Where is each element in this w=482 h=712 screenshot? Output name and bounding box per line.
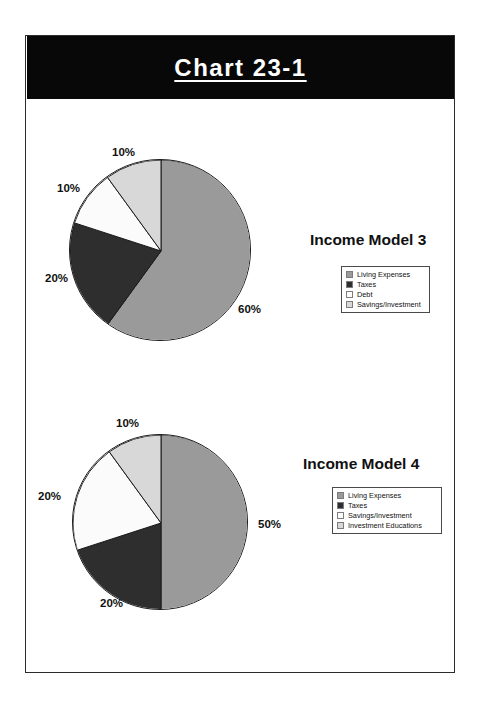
legend-swatch-taxes	[337, 502, 344, 509]
legend-swatch-savings-investment	[346, 301, 353, 308]
page-sheet-border	[25, 35, 455, 673]
legend-swatch-savings-investment	[337, 512, 344, 519]
pie2-slice-label-investment-educations: 10%	[116, 417, 139, 429]
legend-item: Taxes	[346, 280, 425, 289]
legend-item: Taxes	[337, 501, 437, 510]
legend-swatch-living-expenses	[346, 271, 353, 278]
legend-swatch-taxes	[346, 281, 353, 288]
legend-label-taxes: Taxes	[357, 280, 376, 289]
chart-title-income-model-4: Income Model 4	[303, 455, 419, 473]
legend-label-living-expenses: Living Expenses	[357, 270, 410, 279]
chart-title-income-model-3: Income Model 3	[310, 231, 426, 249]
pie2-slice-label-taxes: 20%	[100, 597, 123, 609]
legend-income-model-4: Living Expenses Taxes Savings/Investment…	[332, 487, 442, 534]
pie-graphic-2	[72, 434, 248, 610]
pie1-slice-label-savings-investment: 10%	[112, 146, 135, 158]
pie1-slice-label-taxes: 20%	[45, 272, 68, 284]
legend-label-living-expenses: Living Expenses	[348, 491, 401, 500]
legend-label-investment-educations: Investment Educations	[348, 521, 422, 530]
legend-item: Savings/Investment	[337, 511, 437, 520]
legend-item: Living Expenses	[337, 491, 437, 500]
legend-swatch-debt	[346, 291, 353, 298]
title-banner: Chart 23-1	[27, 36, 454, 99]
pie-graphic-1	[69, 159, 251, 341]
pie2-slice-label-living-expenses: 50%	[258, 518, 281, 530]
page-canvas: Chart 23-1 60% 20% 10% 10% Income Model …	[0, 0, 482, 712]
legend-label-debt: Debt	[357, 290, 372, 299]
legend-item: Savings/Investment	[346, 300, 425, 309]
pie1-slice-label-debt: 10%	[57, 182, 80, 194]
page-title: Chart 23-1	[174, 54, 306, 82]
legend-income-model-3: Living Expenses Taxes Debt Savings/Inves…	[341, 266, 430, 313]
legend-label-savings-investment: Savings/Investment	[357, 300, 421, 309]
pie1-slice-label-living-expenses: 60%	[238, 303, 261, 315]
legend-label-taxes: Taxes	[348, 501, 367, 510]
legend-swatch-investment-educations	[337, 522, 344, 529]
legend-item: Debt	[346, 290, 425, 299]
legend-swatch-living-expenses	[337, 492, 344, 499]
legend-item: Living Expenses	[346, 270, 425, 279]
legend-label-savings-investment: Savings/Investment	[348, 511, 412, 520]
legend-item: Investment Educations	[337, 521, 437, 530]
pie2-slice-label-savings-investment: 20%	[38, 490, 61, 502]
